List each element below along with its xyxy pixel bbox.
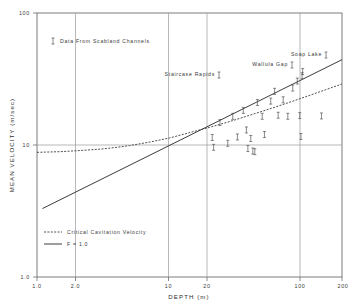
x-tick-label-1: 1.0 [32, 283, 42, 289]
annotation-wallula-gap: Wallula Gap [252, 61, 293, 68]
x-tick-label-200: 200 [337, 283, 348, 289]
annotation-soap-lake: Soap Lake [291, 51, 328, 58]
legend-label-froude: F = 1.0 [67, 241, 88, 247]
annotation-label-staircase: Staircase Rapids [165, 71, 215, 77]
annotation-label-wallula: Wallula Gap [252, 61, 288, 67]
y-axis-title: MEAN VELOCITY (m/sec) [8, 98, 15, 192]
annotation-staircase-rapids: Staircase Rapids [165, 71, 221, 78]
x-axis-title: DEPTH (m) [168, 293, 209, 300]
chart-canvas: 1.0 2.0 10 20 100 200 100 10 1.0 DEPTH (… [0, 0, 357, 307]
x-tick-label-20: 20 [203, 283, 210, 289]
figure-background [0, 0, 357, 307]
x-tick-label-100: 100 [294, 283, 305, 289]
legend-label-critical-cavitation-velocity: Critical Cavitation Velocity [67, 229, 146, 235]
figure-container: 1.0 2.0 10 20 100 200 100 10 1.0 DEPTH (… [0, 0, 357, 307]
annotation-label-scabland: Data From Scabland Channels [60, 38, 150, 44]
y-tick-label-1: 1.0 [20, 274, 30, 280]
annotation-scabland-channels: Data From Scabland Channels [51, 38, 149, 44]
y-tick-label-10: 10 [23, 142, 30, 148]
annotation-label-soap-lake: Soap Lake [291, 51, 322, 57]
x-tick-label-2: 2.0 [71, 283, 81, 289]
x-tick-label-10: 10 [165, 283, 172, 289]
y-tick-label-100: 100 [19, 10, 30, 16]
